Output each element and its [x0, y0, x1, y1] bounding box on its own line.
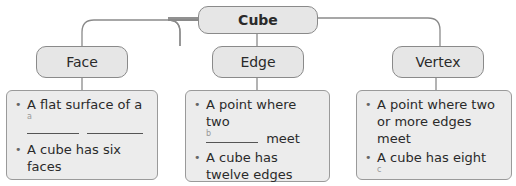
branch-label: Face: [66, 54, 98, 70]
blank-label-b: b: [206, 130, 211, 138]
blank-row: a: [15, 113, 151, 138]
vertex-details-box: A point where two or more edges meet A c…: [356, 90, 512, 180]
blank-row: b meet: [194, 130, 323, 147]
bullet-text: A cube has six faces: [27, 142, 121, 174]
bullet-text: A point where two: [206, 97, 296, 129]
bullet-text: A cube has eight: [377, 150, 486, 165]
branch-node-edge: Edge: [212, 46, 304, 78]
blank-label-c: c: [377, 166, 505, 174]
answer-blank-a-2[interactable]: [87, 121, 143, 134]
bullet-item: A cube has eight: [365, 149, 505, 166]
after-blank-text: meet: [266, 131, 300, 146]
answer-blank-a-1[interactable]: [27, 121, 79, 134]
root-node-cube: Cube: [198, 6, 318, 34]
root-label: Cube: [238, 12, 278, 28]
bullet-item: A flat surface of a: [15, 96, 151, 113]
branch-node-face: Face: [36, 46, 128, 78]
bullet-item: A point where two: [194, 96, 323, 130]
branch-label: Edge: [240, 54, 275, 70]
bullet-text: A cube has twelve edges: [206, 150, 292, 182]
answer-blank-b[interactable]: [206, 130, 258, 143]
face-details-box: A flat surface of a a A cube has six fac…: [6, 90, 158, 180]
branch-node-vertex: Vertex: [392, 46, 484, 78]
bullet-item: A point where two or more edges meet: [365, 96, 505, 147]
edge-details-box: A point where two b meet A cube has twel…: [185, 90, 330, 182]
bullet-text: A flat surface of a: [27, 97, 142, 112]
branch-label: Vertex: [415, 54, 460, 70]
bullet-text: A point where two or more edges meet: [377, 97, 495, 146]
bullet-item: A cube has six faces: [15, 141, 151, 175]
answer-blank-c[interactable]: [377, 174, 447, 186]
blank-row: c: [365, 166, 505, 186]
bullet-item: A cube has twelve edges: [194, 149, 323, 183]
blank-label-a: a: [27, 113, 151, 121]
